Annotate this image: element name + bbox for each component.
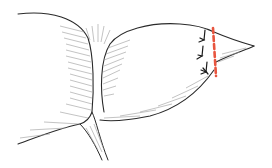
- suture-2: [197, 46, 203, 59]
- sutures: [197, 30, 208, 74]
- suture-1: [199, 30, 205, 42]
- central-stalk: [80, 112, 108, 160]
- right-lobe: [100, 24, 254, 121]
- illustration-canvas: [0, 0, 272, 168]
- left-lobe: [18, 13, 93, 144]
- resection-line: [213, 28, 216, 76]
- left-lobe-hatching: [20, 26, 92, 138]
- surgical-illustration: [0, 0, 272, 168]
- suture-3: [201, 62, 208, 74]
